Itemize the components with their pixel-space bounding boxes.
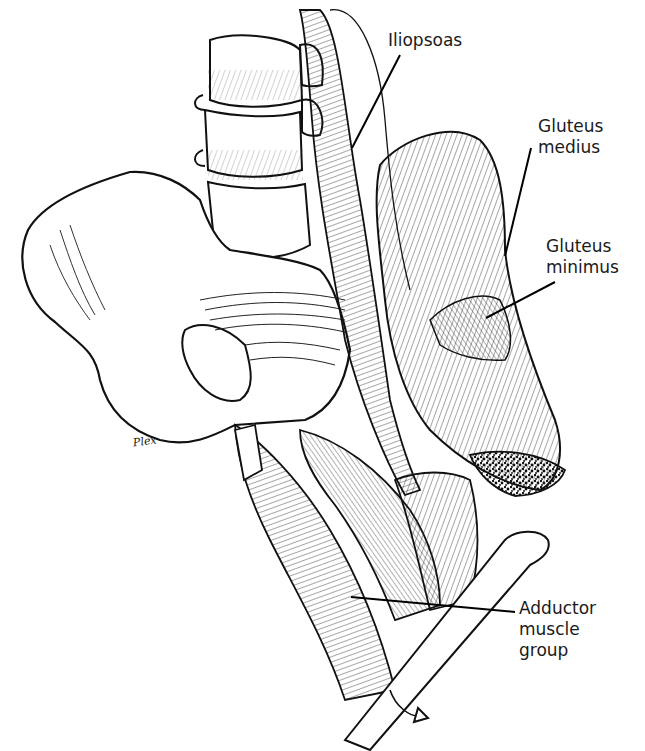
label-gluteus-minimus: Gluteus minimus <box>546 236 619 278</box>
label-gluteus-medius: Gluteus medius <box>538 116 603 158</box>
leader-gluteus-medius <box>505 148 531 256</box>
label-iliopsoas: Iliopsoas <box>388 30 462 51</box>
anatomy-figure: Iliopsoas Gluteus medius Gluteus minimus… <box>0 0 645 751</box>
label-adductor-muscle-group: Adductor muscle group <box>519 598 596 661</box>
leader-iliopsoas <box>352 55 400 148</box>
